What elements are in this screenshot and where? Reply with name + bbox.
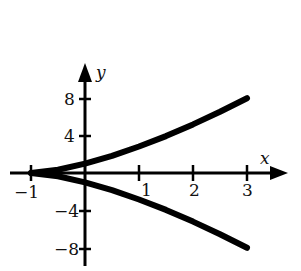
x-tick-label: 3 xyxy=(242,180,253,200)
x-tick-label: −1 xyxy=(14,182,39,202)
x-axis-arrow-icon xyxy=(270,166,288,180)
y-tick-label: 8 xyxy=(64,89,75,109)
y-axis-arrow-icon xyxy=(78,63,92,82)
y-tick-label: −8 xyxy=(54,239,79,259)
y-tick-label: −4 xyxy=(54,201,79,221)
chart: y x −1 1 2 3 8 4 −4 −8 xyxy=(0,0,301,271)
x-tick-label: 2 xyxy=(189,180,200,200)
x-axis-label: x xyxy=(260,148,270,168)
x-tick-label: 1 xyxy=(141,180,152,200)
y-tick-label: 4 xyxy=(64,126,75,146)
y-axis-label: y xyxy=(95,62,106,82)
